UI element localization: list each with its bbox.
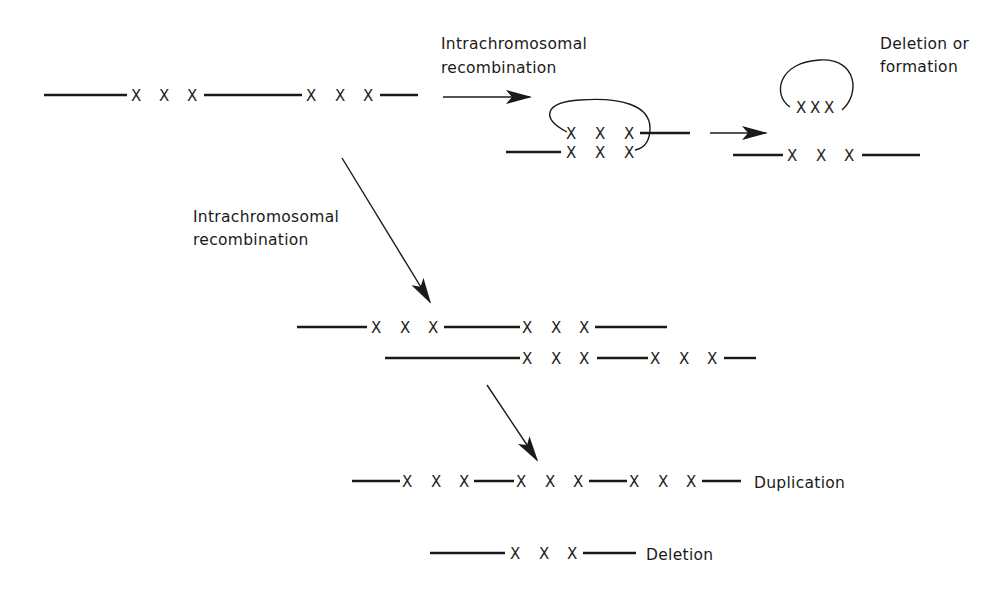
deletion-label: Deletion (646, 546, 713, 564)
svg-text:recombination: recombination (441, 59, 557, 77)
top-recombination-label: Intrachromosomal recombination (441, 35, 587, 77)
svg-text:X: X (522, 350, 532, 368)
svg-text:X: X (707, 350, 717, 368)
duplication-product: X X X X X X X X X Duplication (352, 473, 845, 492)
svg-text:X: X (624, 144, 634, 162)
svg-text:X: X (566, 144, 576, 162)
loop-pairing: X X X X X X (506, 99, 690, 162)
svg-text:X: X (844, 147, 854, 165)
svg-text:X: X (510, 545, 520, 563)
recombination-diagram: X X X X X X Intrachromosomal recombinati… (0, 0, 1002, 593)
svg-text:X: X (131, 87, 141, 105)
svg-text:X: X (629, 473, 639, 491)
svg-text:X: X (650, 350, 660, 368)
svg-text:X: X (658, 473, 668, 491)
circle-result-label: Deletion or formation (880, 35, 969, 76)
svg-text:Deletion or: Deletion or (880, 35, 969, 53)
svg-text:X: X (363, 87, 373, 105)
svg-text:X: X (573, 473, 583, 491)
svg-text:X: X (335, 87, 345, 105)
svg-text:X: X (595, 144, 605, 162)
deletion-product: X X X Deletion (430, 545, 713, 564)
svg-text:X: X (187, 87, 197, 105)
svg-text:X: X (787, 147, 797, 165)
misaligned-pair-lower: X X X X X X (385, 350, 756, 368)
original-chromosome: X X X X X X (44, 87, 418, 105)
svg-text:Intrachromosomal: Intrachromosomal (193, 208, 339, 226)
svg-text:X: X (810, 99, 820, 117)
svg-text:Intrachromosomal: Intrachromosomal (441, 35, 587, 53)
arrow-down-icon (487, 385, 537, 460)
svg-text:X: X (595, 125, 605, 143)
svg-text:formation: formation (880, 58, 958, 76)
svg-text:X: X (686, 473, 696, 491)
misaligned-pair-upper: X X X X X X (297, 319, 667, 337)
duplication-label: Duplication (754, 474, 845, 492)
svg-text:X: X (579, 319, 589, 337)
svg-text:X: X (545, 473, 555, 491)
svg-text:X: X (371, 319, 381, 337)
left-recombination-label: Intrachromosomal recombination (193, 208, 339, 249)
svg-text:X: X (796, 99, 806, 117)
svg-text:X: X (579, 350, 589, 368)
svg-text:X: X (624, 125, 634, 143)
svg-text:X: X (679, 350, 689, 368)
svg-text:X: X (566, 125, 576, 143)
svg-text:X: X (459, 473, 469, 491)
svg-text:X: X (402, 473, 412, 491)
svg-text:X: X (567, 545, 577, 563)
svg-text:X: X (400, 319, 410, 337)
svg-text:X: X (428, 319, 438, 337)
svg-text:X: X (816, 147, 826, 165)
svg-text:X: X (551, 350, 561, 368)
svg-text:recombination: recombination (193, 231, 309, 249)
svg-text:X: X (516, 473, 526, 491)
arrow-down-icon (342, 158, 430, 302)
svg-text:X: X (539, 545, 549, 563)
svg-text:X: X (159, 87, 169, 105)
svg-text:X: X (551, 319, 561, 337)
svg-text:X: X (431, 473, 441, 491)
svg-text:X: X (306, 87, 316, 105)
svg-text:X: X (522, 319, 532, 337)
excised-circle: X X X (780, 60, 853, 117)
deletion-product-top: X X X (733, 147, 920, 165)
svg-text:X: X (824, 99, 834, 117)
